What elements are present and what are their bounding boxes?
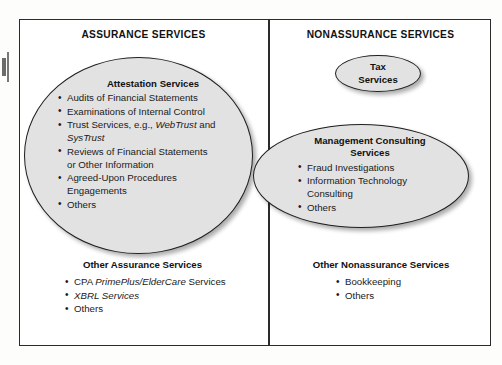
other-assurance-heading: Other Assurance Services [35,259,250,271]
other-assurance-services-block: Other Assurance Services CPA PrimePlus/E… [35,259,250,315]
list-item: Examinations of Internal Control [58,105,248,118]
list-item: Engagements [58,184,248,197]
other-nonassurance-list: BookkeepingOthers [281,275,481,302]
list-item: or Other Information [58,158,248,171]
list-item: Agreed-Upon Procedures [58,171,248,184]
list-item: CPA PrimePlus/ElderCare Services [65,275,250,288]
list-item: Information Technology [298,174,456,187]
list-item: Others [58,198,248,211]
column-title-assurance: ASSURANCE SERVICES [19,29,268,40]
other-nonassurance-heading: Other Nonassurance Services [281,259,481,271]
attestation-heading: Attestation Services [58,78,248,90]
scan-artifact-line [7,52,9,82]
column-title-nonassurance: NONASSURANCE SERVICES [270,29,491,40]
list-item: Reviews of Financial Statements [58,145,248,158]
management-consulting-block: Management Consulting Services Fraud Inv… [284,135,456,214]
list-item: Others [65,302,250,315]
list-item: Bookkeeping [336,275,481,288]
other-nonassurance-services-block: Other Nonassurance Services BookkeepingO… [281,259,481,302]
list-item: Others [336,289,481,302]
other-assurance-list: CPA PrimePlus/ElderCare ServicesXBRL Ser… [35,275,250,315]
tax-line-1: Tax [335,60,421,73]
list-item: SysTrust [58,131,248,144]
management-consulting-heading-line-2: Services [284,147,456,159]
management-consulting-list: Fraud InvestigationsInformation Technolo… [284,161,456,214]
list-item: Consulting [298,187,456,200]
list-item: Audits of Financial Statements [58,91,248,104]
scan-artifact-mark [2,58,6,76]
tax-services-block: Tax Services [335,60,421,86]
list-item: Others [298,201,456,214]
tax-line-2: Services [335,73,421,86]
list-item: Trust Services, e.g., WebTrust and [58,118,248,131]
attestation-list: Audits of Financial StatementsExaminatio… [58,91,248,211]
list-item: Fraud Investigations [298,161,456,174]
management-consulting-heading-line-1: Management Consulting [284,135,456,147]
attestation-services-block: Attestation Services Audits of Financial… [58,78,248,211]
list-item: XBRL Services [65,289,250,302]
